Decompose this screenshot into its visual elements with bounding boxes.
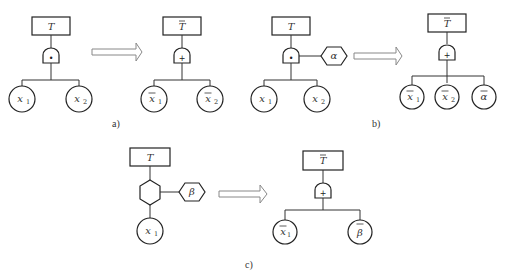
svg-text:α: α: [481, 91, 488, 102]
svg-text:1: 1: [26, 98, 30, 106]
transform-arrow-icon: [219, 185, 267, 203]
svg-text:x: x: [145, 225, 151, 236]
svg-text:x: x: [17, 93, 23, 104]
svg-text:2: 2: [321, 98, 325, 106]
svg-text:+: +: [444, 51, 451, 60]
transform-arrow-icon: [354, 47, 402, 65]
panel-c-before: T β x 1: [130, 148, 205, 244]
panel-a-after: T + x 1 x 2: [141, 17, 223, 112]
svg-text:β: β: [356, 227, 363, 238]
svg-text:x: x: [74, 93, 80, 104]
svg-text:x: x: [149, 93, 155, 104]
svg-text:2: 2: [451, 96, 455, 104]
caption-a: a): [112, 118, 120, 130]
svg-text:2: 2: [214, 98, 218, 106]
panel-b-after: T + x 1 x 2 α: [400, 14, 496, 109]
svg-text:x: x: [205, 93, 211, 104]
svg-text:+: +: [320, 189, 327, 198]
svg-text:1: 1: [416, 96, 420, 104]
svg-text:+: +: [179, 54, 186, 63]
svg-text:x: x: [280, 226, 286, 237]
svg-text:x: x: [259, 93, 265, 104]
svg-text:1: 1: [154, 230, 158, 238]
svg-text:•: •: [289, 54, 294, 63]
transform-arrow-icon: [92, 43, 142, 61]
svg-text:β: β: [188, 186, 195, 197]
svg-text:x: x: [407, 91, 413, 102]
svg-text:2: 2: [83, 98, 87, 106]
panel-c-after: T + x 1 β: [273, 151, 372, 244]
fault-tree-transformation-diagram: T • x 1 x 2 T + x 1 x 2 a): [0, 0, 506, 276]
panel-b-before: T • α x 1 x 2: [251, 17, 347, 112]
svg-text:1: 1: [158, 98, 162, 106]
and-gate-symbol: •: [49, 54, 54, 63]
svg-text:1: 1: [287, 231, 291, 239]
panel-a-before: T • x 1 x 2: [9, 17, 92, 112]
caption-b: b): [372, 118, 380, 130]
svg-text:α: α: [331, 50, 338, 61]
svg-text:x: x: [442, 91, 448, 102]
caption-c: c): [245, 259, 253, 271]
svg-text:x: x: [312, 93, 318, 104]
inhibit-gate-hexagon-icon: [140, 180, 160, 205]
svg-text:1: 1: [268, 98, 272, 106]
